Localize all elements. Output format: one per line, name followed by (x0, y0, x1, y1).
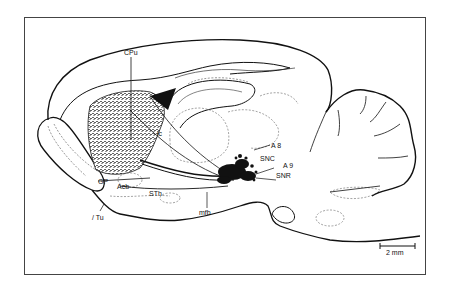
label-a8: A 8 (271, 142, 281, 149)
label-acb: Acb (117, 183, 129, 190)
label-mfb: mfb (199, 209, 211, 216)
label-tu-text: Tu (96, 214, 104, 221)
label-gp: GP (98, 178, 108, 185)
label-ic: ic (157, 130, 162, 137)
scale-bar-label: 2 mm (386, 249, 404, 256)
label-tu: / Tu (92, 214, 104, 221)
ventral-outline (92, 190, 420, 242)
substantia-nigra-cells (217, 154, 258, 184)
label-a9: A 9 (283, 162, 293, 169)
hippocampus (170, 80, 255, 128)
label-snc: SNC (260, 155, 275, 162)
striatum-cpu (88, 91, 164, 175)
label-snr: SNR (276, 172, 291, 179)
label-sth: STh (149, 190, 162, 197)
cerebellum (326, 90, 416, 196)
brain-sagittal-diagram (0, 0, 450, 293)
label-cpu: CPu (124, 49, 138, 56)
